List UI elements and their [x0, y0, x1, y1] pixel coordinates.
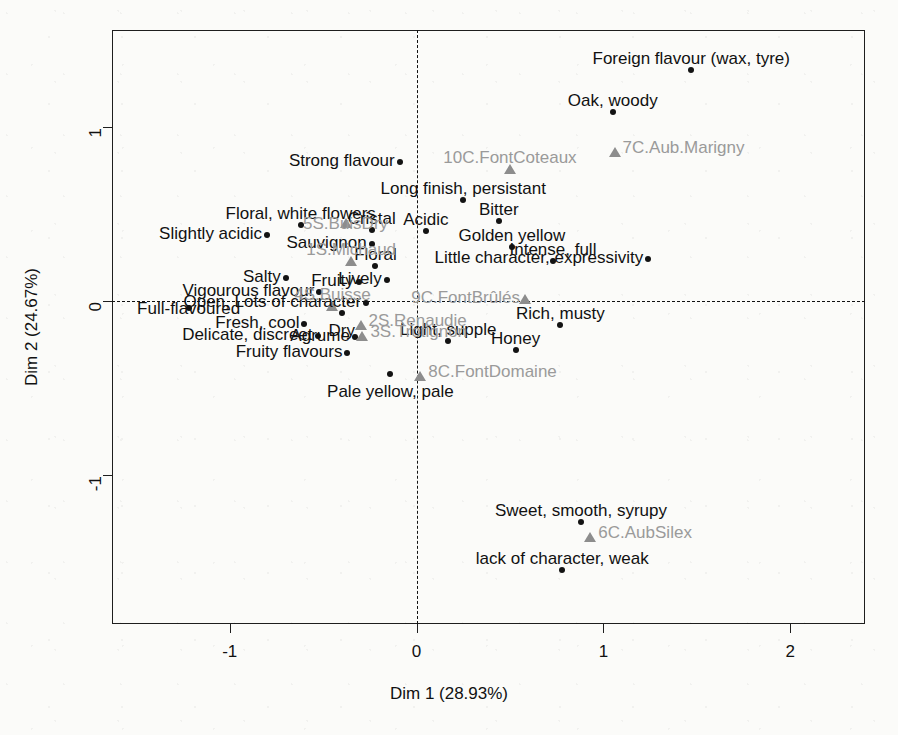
- x-tick-label: 1: [583, 642, 623, 662]
- x-tick: [790, 624, 791, 633]
- variable-label: Honey: [491, 330, 540, 347]
- variable-label: Fruity flavours: [236, 343, 343, 360]
- variable-marker: [264, 232, 270, 238]
- individual-marker: [355, 320, 367, 330]
- individual-label: 5S.BuisDry: [303, 215, 388, 232]
- x-tick-label: -1: [210, 642, 250, 662]
- individual-marker: [414, 371, 426, 381]
- individual-label: 1S.Michaud: [306, 241, 396, 258]
- variable-label: Rich, musty: [516, 305, 605, 322]
- variable-label: Foreign flavour (wax, tyre): [592, 50, 789, 67]
- individual-label: 7C.Aub.Marigny: [623, 139, 745, 156]
- y-axis-title: Dim 2 (24.67%): [22, 227, 42, 427]
- individual-label: 9C.FontBrûlés: [411, 289, 520, 306]
- individual-marker: [519, 294, 531, 304]
- variable-label: Slightly acidic: [159, 225, 262, 242]
- individual-marker: [609, 147, 621, 157]
- x-tick-label: 2: [770, 642, 810, 662]
- variable-label: Little character, expressivity: [434, 249, 643, 266]
- variable-label: Long finish, persistant: [381, 180, 546, 197]
- x-tick: [603, 624, 604, 633]
- x-tick: [417, 624, 418, 633]
- y-tick-label: 0: [86, 302, 106, 342]
- variable-label: Pale yellow, pale: [327, 383, 454, 400]
- x-axis-title: Dim 1 (28.93%): [0, 684, 898, 704]
- individual-label: 3S.Trotignon: [370, 323, 467, 340]
- variable-marker: [397, 159, 403, 165]
- x-tick-label: 0: [397, 642, 437, 662]
- y-tick-label: -1: [86, 476, 106, 516]
- variable-marker: [384, 277, 390, 283]
- individual-marker: [356, 331, 368, 341]
- individual-label: 4S.Buisse: [294, 286, 371, 303]
- y-tick-label: 1: [86, 128, 106, 168]
- x-tick: [230, 624, 231, 633]
- variable-label: lack of character, weak: [476, 550, 649, 567]
- variable-marker: [339, 310, 345, 316]
- variable-label: Bitter: [479, 201, 519, 218]
- variable-label: Strong flavour: [289, 152, 395, 169]
- variable-label: Sweet, smooth, syrupy: [495, 502, 667, 519]
- individual-label: 8C.FontDomaine: [428, 363, 557, 380]
- pca-biplot: -1012 10-1 Foreign flavour (wax, tyre)Oa…: [0, 0, 898, 735]
- individual-marker: [584, 532, 596, 542]
- variable-label: Oak, woody: [568, 92, 658, 109]
- individual-label: 6C.AubSilex: [598, 524, 692, 541]
- variable-label: Acidic: [403, 211, 448, 228]
- individual-label: 10C.FontCoteaux: [443, 149, 576, 166]
